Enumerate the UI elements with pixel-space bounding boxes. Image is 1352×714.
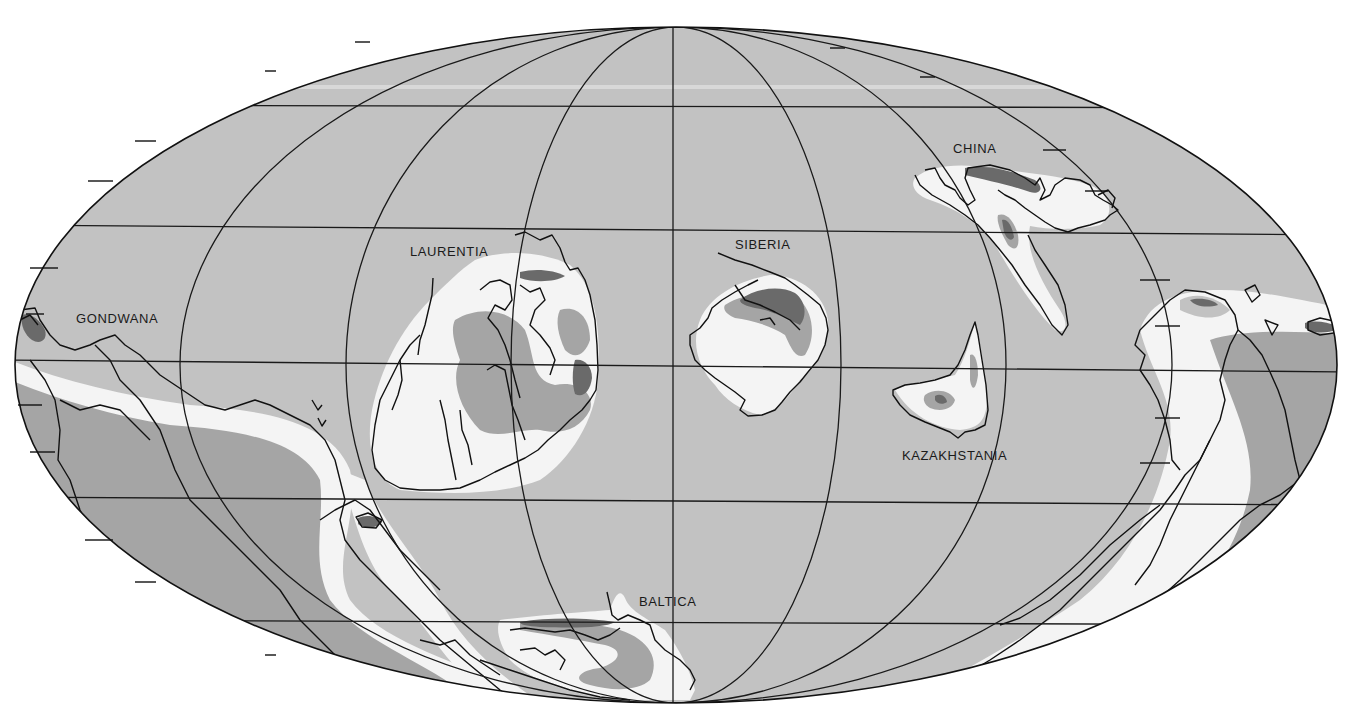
print-streak <box>250 85 1150 89</box>
label-siberia: SIBERIA <box>735 237 791 252</box>
label-baltica: BALTICA <box>639 594 696 609</box>
label-kazakhstania: KAZAKHSTANIA <box>902 448 1007 463</box>
label-gondwana: GONDWANA <box>76 311 158 326</box>
label-china: CHINA <box>953 141 996 156</box>
label-laurentia: LAURENTIA <box>410 244 488 259</box>
paleogeographic-world-map: GONDWANA LAURENTIA SIBERIA CHINA KAZAKHS… <box>0 0 1352 714</box>
